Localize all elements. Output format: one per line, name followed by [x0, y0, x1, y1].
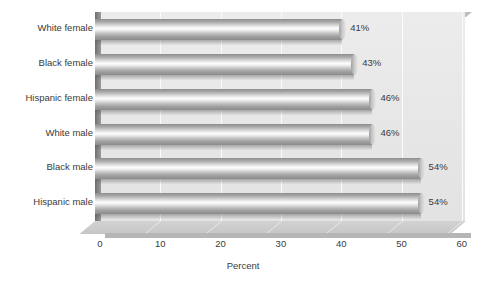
category-label: Hispanic female	[0, 92, 93, 103]
category-label: Black female	[0, 57, 93, 68]
value-label: 54%	[429, 161, 448, 172]
value-label: 41%	[350, 22, 369, 33]
bar-end-cap	[339, 19, 346, 40]
bar-shadow	[95, 75, 354, 80]
bar	[95, 154, 429, 188]
x-tick-label: 0	[85, 238, 115, 249]
category-label: Hispanic male	[0, 196, 93, 207]
x-tick-label: 10	[145, 238, 175, 249]
bar-body	[95, 193, 421, 214]
bar-end-cap	[369, 124, 376, 145]
bar-body	[95, 124, 372, 145]
plot-area	[95, 12, 465, 234]
value-label: 43%	[362, 57, 381, 68]
bar-body	[95, 89, 372, 110]
category-label: Black male	[0, 161, 93, 172]
bar	[95, 50, 362, 84]
category-label: White female	[0, 22, 93, 33]
bar-body	[95, 158, 421, 179]
bar	[95, 15, 350, 49]
value-label: 54%	[429, 196, 448, 207]
bar-chart: White femaleBlack femaleHispanic femaleW…	[0, 0, 486, 284]
bar-body	[95, 19, 342, 40]
bar	[95, 120, 380, 154]
category-label: White male	[0, 127, 93, 138]
gridline	[462, 12, 463, 221]
value-label: 46%	[380, 92, 399, 103]
bar-shadow	[95, 179, 421, 184]
x-tick-label: 30	[266, 238, 296, 249]
bar-end-cap	[351, 54, 358, 75]
x-tick-label: 40	[326, 238, 356, 249]
bar-shadow	[95, 145, 372, 150]
bar	[95, 85, 380, 119]
value-label: 46%	[380, 127, 399, 138]
x-tick-label: 20	[206, 238, 236, 249]
bar-end-cap	[418, 158, 425, 179]
bar	[95, 189, 429, 223]
x-tick-label: 50	[387, 238, 417, 249]
bar-end-cap	[369, 89, 376, 110]
bar-shadow	[95, 214, 421, 219]
x-axis-title: Percent	[0, 260, 486, 271]
bar-shadow	[95, 110, 372, 115]
bar-body	[95, 54, 354, 75]
bar-shadow	[95, 40, 342, 45]
x-tick-label: 60	[447, 238, 477, 249]
bar-end-cap	[418, 193, 425, 214]
